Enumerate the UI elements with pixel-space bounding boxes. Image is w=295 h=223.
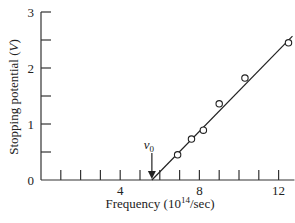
data-points <box>174 40 291 158</box>
y-tick-label: 2 <box>28 61 35 76</box>
data-point <box>174 152 180 158</box>
data-point <box>285 40 291 46</box>
y-axis-title: Stopping potential (V) <box>6 39 21 155</box>
chart: 01234812 ν0 Frequency (1014/sec) Stoppin… <box>0 0 295 223</box>
y-tick-label: 3 <box>28 5 35 20</box>
nu0-annotation: ν0 <box>144 137 156 179</box>
data-point <box>242 75 248 81</box>
data-point <box>216 101 222 107</box>
data-point <box>200 127 206 133</box>
tick-labels: 01234812 <box>28 5 286 198</box>
y-tick-label: 0 <box>28 173 35 188</box>
nu0-label: ν0 <box>144 137 155 154</box>
fit-line-segment <box>152 36 293 180</box>
x-tick-label: 12 <box>272 183 285 198</box>
axes <box>41 12 294 180</box>
data-point <box>188 136 194 142</box>
y-tick-label: 1 <box>28 117 35 132</box>
fit-line <box>152 36 293 180</box>
x-axis-title: Frequency (1014/sec) <box>106 195 215 211</box>
